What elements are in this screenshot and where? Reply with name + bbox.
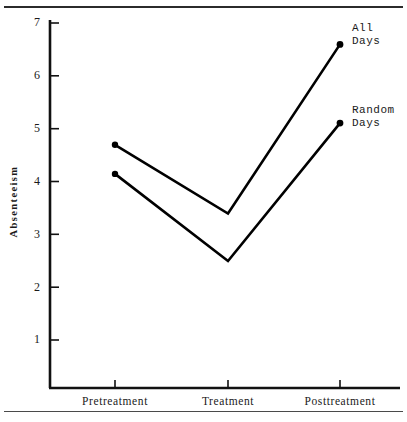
y-tick-label-1: 1 bbox=[22, 332, 40, 347]
y-tick-label-4: 4 bbox=[22, 174, 40, 189]
series-line-random-days bbox=[115, 123, 340, 261]
y-tick-label-2: 2 bbox=[22, 280, 40, 295]
series-label-random-days: Random Days bbox=[352, 104, 395, 129]
y-tick-label-7: 7 bbox=[22, 15, 40, 30]
data-point-random-days-posttreatment bbox=[337, 120, 344, 127]
data-point-all-days-pretreatment bbox=[112, 142, 118, 148]
chart-plot-area bbox=[0, 0, 407, 422]
y-tick-label-5: 5 bbox=[22, 121, 40, 136]
x-tick-label-posttreatment: Posttreatment bbox=[280, 395, 400, 407]
figure-container: 7 6 5 4 3 2 1 Absenteeism Pretreatment T… bbox=[0, 0, 407, 422]
y-axis-title: Absenteeism bbox=[8, 162, 19, 242]
y-axis-ticks bbox=[50, 23, 59, 340]
bottom-horizontal-rule bbox=[4, 411, 403, 412]
data-point-all-days-posttreatment bbox=[337, 41, 344, 48]
x-tick-label-pretreatment: Pretreatment bbox=[55, 395, 175, 407]
y-tick-label-3: 3 bbox=[22, 227, 40, 242]
data-point-random-days-pretreatment bbox=[112, 171, 118, 177]
x-tick-label-treatment: Treatment bbox=[168, 395, 288, 407]
y-tick-label-6: 6 bbox=[22, 68, 40, 83]
series-line-all-days bbox=[115, 44, 340, 213]
series-label-all-days: All Days bbox=[352, 22, 380, 47]
